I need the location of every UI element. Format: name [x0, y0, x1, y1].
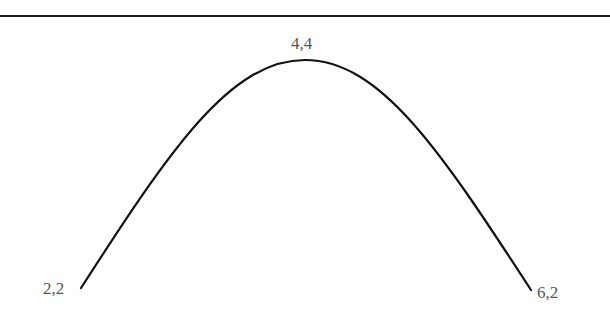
right-endpoint-label: 6,2 [537, 284, 558, 301]
left-endpoint-label: 2,2 [43, 280, 64, 297]
peak-label: 4,4 [291, 35, 312, 52]
